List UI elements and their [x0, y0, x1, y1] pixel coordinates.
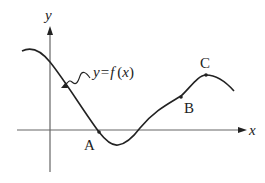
curve-label-close-paren: ): [129, 64, 134, 81]
y-axis-arrow-icon: [47, 26, 53, 35]
point-a-label: A: [84, 137, 95, 153]
point-b-label: B: [184, 100, 194, 116]
label-pointer-squiggle-icon: [64, 72, 90, 86]
point-c: [204, 73, 208, 77]
x-axis-arrow-icon: [238, 127, 247, 133]
curve-label-f: f: [110, 64, 116, 80]
point-c-label: C: [200, 55, 210, 71]
y-axis-label: y: [43, 7, 52, 23]
point-a: [97, 130, 101, 134]
curve-label-y: y: [91, 64, 100, 80]
curve-label: y=f(x): [91, 64, 134, 81]
function-graph: y x y=f(x) A B C: [0, 0, 265, 183]
x-axis-label: x: [248, 122, 256, 138]
point-b: [179, 95, 183, 99]
curve-label-eq: =: [101, 64, 109, 80]
